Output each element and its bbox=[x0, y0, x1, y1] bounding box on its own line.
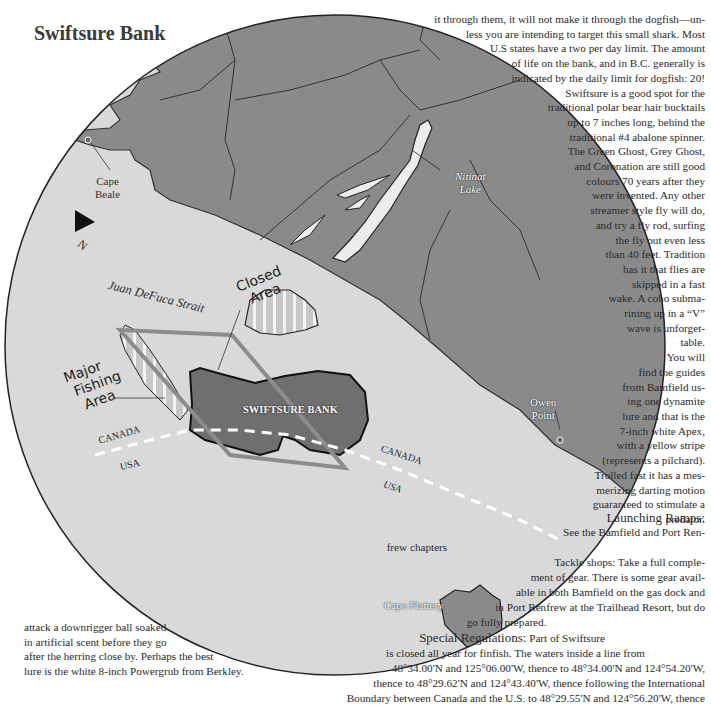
text-line: indicated by the daily limit for dogfish… bbox=[434, 71, 705, 86]
launching-heading: Launching Ramps: bbox=[347, 510, 705, 525]
label-line: Beale bbox=[95, 188, 120, 201]
text-line: it through them, it will not make it thr… bbox=[434, 12, 705, 27]
text-line: after the herring close by. Perhaps the … bbox=[24, 649, 244, 664]
text-line: were invented. Any other bbox=[434, 188, 705, 203]
text-line: streamer style fly will do, bbox=[434, 203, 705, 218]
text-line: Boundary between Canada and the U.S. to … bbox=[347, 691, 705, 706]
text-line: and Coronation are still good bbox=[434, 159, 705, 174]
text-line: colours 70 years after they bbox=[434, 174, 705, 189]
text-line: rining up in a “V” bbox=[434, 306, 705, 321]
text-line: attack a downrigger ball soaked bbox=[24, 620, 244, 635]
text-line: traditional #4 abalone spinner. bbox=[434, 130, 705, 145]
body-text-left: attack a downrigger ball soaked in artif… bbox=[24, 620, 244, 678]
text-line: Swiftsure is a good spot for the bbox=[434, 86, 705, 101]
text-line: frew chapters bbox=[347, 540, 705, 555]
text-line: and try a fly rod, surfing bbox=[434, 218, 705, 233]
text-line: less you are intending to target this sm… bbox=[434, 27, 705, 42]
text-line: able in both Bamfield on the gas dock an… bbox=[347, 585, 705, 600]
text-line: find the guides bbox=[434, 365, 705, 380]
text-line: Part of Swiftsure bbox=[529, 632, 605, 644]
text-line: traditional polar bear hair bucktails bbox=[434, 100, 705, 115]
text-line: U.S states have a two per day limit. The… bbox=[434, 41, 705, 56]
text-line: wake. A coho subma- bbox=[434, 291, 705, 306]
text-line: ment of gear. There is some gear avail- bbox=[347, 570, 705, 585]
label-swiftsure-bank: SWIFTSURE BANK bbox=[243, 403, 338, 418]
text-line: wave is unforget- bbox=[434, 321, 705, 336]
text-line: the fly out even less bbox=[434, 233, 705, 248]
text-line: thence to 48°29.62'N and 124°43.40'W, th… bbox=[347, 676, 705, 691]
text-line: See the Bamfield and Port Ren- bbox=[347, 525, 705, 540]
text-line: 48°34.00'N and 125°06.00'W, thence to 48… bbox=[347, 661, 705, 676]
text-line: is closed all year for finfish. The wate… bbox=[347, 646, 705, 661]
text-line: has it that flies are bbox=[434, 262, 705, 277]
text-line: table. bbox=[434, 335, 705, 350]
regs-heading: Special Regulations: bbox=[419, 630, 526, 645]
text-line: ing one dynamite bbox=[434, 394, 705, 409]
text-line: Tackle shops: Take a full comple- bbox=[347, 555, 705, 570]
label-line: Cape bbox=[95, 175, 120, 188]
text-line: in artificial scent before they go bbox=[24, 635, 244, 650]
text-line: 7-inch white Apex, bbox=[434, 424, 705, 439]
label-cape-beale: Cape Beale bbox=[95, 175, 120, 201]
text-line: than 40 feet. Tradition bbox=[434, 247, 705, 262]
text-line: skipped in a fast bbox=[434, 277, 705, 292]
text-line: merizing darting motion bbox=[434, 483, 705, 498]
text-line: go fully prepared. bbox=[347, 615, 705, 630]
text-line: Trolled fast it has a mes- bbox=[434, 468, 705, 483]
regs-line: Special Regulations: Part of Swiftsure bbox=[347, 630, 705, 646]
sidebar-info: Launching Ramps: See the Bamfield and Po… bbox=[347, 510, 705, 706]
text-line: lure and that is the bbox=[434, 409, 705, 424]
text-line: You will bbox=[434, 350, 705, 365]
text-line: from Bamfield us- bbox=[434, 380, 705, 395]
text-line: in Port Renfrew at the Trailhead Resort,… bbox=[347, 600, 705, 615]
text-line: (represents a pilchard). bbox=[434, 453, 705, 468]
text-line: of life on the bank, and in B.C. general… bbox=[434, 56, 705, 71]
body-text-right: it through them, it will not make it thr… bbox=[434, 12, 705, 527]
text-line: lure is the white 8-inch Powergrub from … bbox=[24, 664, 244, 679]
text-line: The Green Ghost, Grey Ghost, bbox=[434, 144, 705, 159]
text-line: up to 7 inches long, behind the bbox=[434, 115, 705, 130]
text-line: with a yellow stripe bbox=[434, 438, 705, 453]
